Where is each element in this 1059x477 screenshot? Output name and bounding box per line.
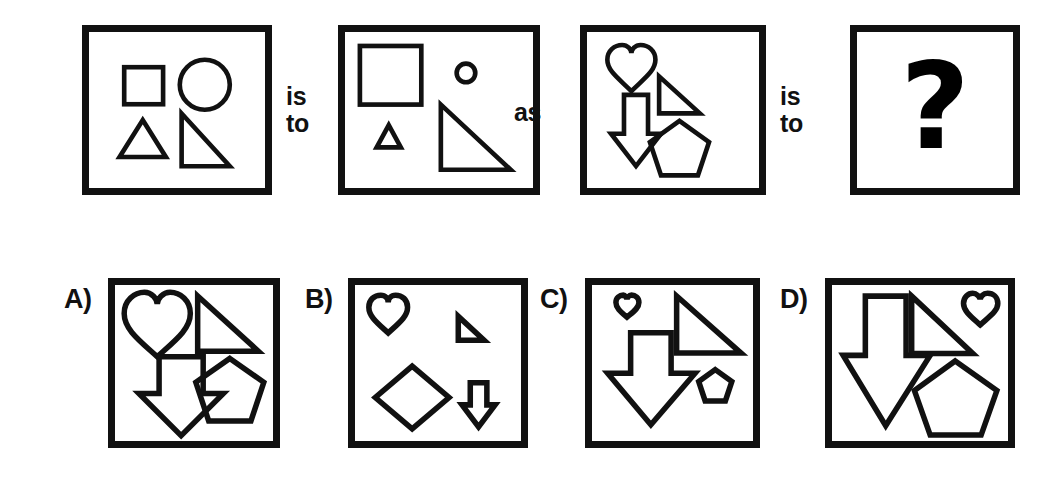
right-triangle-small-icon — [458, 316, 484, 340]
pentagon-large-icon — [914, 361, 996, 435]
connector-is-to-2: is to — [780, 62, 826, 158]
triangle-small-icon — [377, 125, 401, 147]
question-mark-icon: ? — [857, 32, 1013, 188]
right-triangle-large-icon — [677, 296, 741, 353]
right-triangle-large-icon — [198, 296, 259, 351]
connector-line-2: to — [286, 110, 332, 137]
option-c-label: C) — [540, 286, 568, 313]
pentagon-large-icon — [196, 358, 264, 420]
option-c-shapes — [592, 285, 753, 441]
diamond-medium-icon — [375, 366, 449, 429]
circle-large-icon — [180, 60, 230, 110]
option-b-shapes — [355, 285, 521, 442]
down-arrow-small-icon — [462, 383, 495, 427]
triangle-medium-icon — [120, 120, 166, 157]
option-b-label: B) — [305, 286, 333, 313]
connector-is-to-1: is to — [286, 62, 332, 158]
right-triangle-medium-icon — [182, 114, 230, 167]
connector-line-1: is — [286, 83, 332, 110]
heart-small-icon — [369, 295, 408, 333]
heart-tiny-icon — [616, 295, 639, 317]
heart-small-icon — [964, 293, 998, 324]
pentagon-small-icon — [699, 370, 732, 401]
option-a-shapes — [115, 285, 273, 441]
right-triangle-medium-icon — [659, 76, 700, 113]
option-b-panel[interactable] — [348, 278, 528, 448]
first-term-shapes — [89, 32, 265, 189]
right-triangle-large-icon — [441, 105, 511, 170]
option-a-panel[interactable] — [108, 278, 280, 448]
circle-tiny-icon — [457, 64, 476, 83]
heart-medium-icon — [607, 45, 655, 91]
connector-line-1: as — [514, 99, 562, 126]
down-arrow-large-icon — [608, 333, 695, 425]
third-term-shapes — [587, 32, 759, 189]
second-term-panel[interactable] — [338, 25, 540, 195]
connector-line-2: to — [780, 110, 826, 137]
option-a-label: A) — [64, 286, 92, 313]
answer-placeholder-panel[interactable]: ? — [850, 25, 1020, 195]
first-term-panel[interactable] — [82, 25, 272, 195]
pentagon-medium-icon — [650, 121, 709, 176]
option-d-label: D) — [780, 286, 808, 313]
third-term-panel[interactable] — [580, 25, 766, 195]
square-medium-icon — [124, 67, 163, 104]
connector-line-1: is — [780, 83, 826, 110]
option-c-panel[interactable] — [585, 278, 760, 448]
analogy-puzzle: is to as is to — [0, 0, 1059, 477]
option-d-shapes — [832, 285, 1008, 442]
square-large-icon — [360, 46, 421, 105]
connector-as: as — [514, 92, 562, 132]
down-arrow-large-icon — [139, 357, 224, 436]
heart-large-icon — [124, 292, 190, 356]
option-d-panel[interactable] — [825, 278, 1015, 448]
second-term-shapes — [345, 32, 533, 190]
